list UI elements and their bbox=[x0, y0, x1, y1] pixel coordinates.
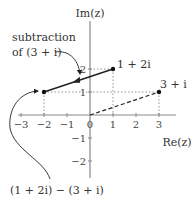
direction-arrow-icon bbox=[72, 77, 80, 83]
y-tick-label: 2 bbox=[80, 64, 86, 75]
annotation-subtraction-line2: of (3 + i) bbox=[12, 46, 62, 59]
annotation-arrow-result bbox=[10, 91, 50, 179]
y-tick-label: −2 bbox=[71, 156, 86, 167]
x-tick-label: 3 bbox=[156, 119, 162, 130]
x-axis-label: Re(z) bbox=[162, 136, 191, 149]
y-axis-label: Im(z) bbox=[75, 7, 104, 20]
y-tick-label: 1 bbox=[80, 87, 86, 98]
guide-lines bbox=[44, 69, 159, 115]
y-tick-label: −1 bbox=[71, 133, 86, 144]
x-tick-label: 0 bbox=[87, 119, 93, 130]
annotation-subtraction-line1: subtraction bbox=[12, 31, 76, 44]
complex-plane-diagram: −3 −2 −1 0 1 2 3 2 1 −1 −2 Im(z) Re(z) 1… bbox=[0, 0, 194, 204]
annotation-result: (1 + 2i) − (3 + i) bbox=[10, 184, 104, 197]
point-result bbox=[42, 90, 46, 94]
label-1-plus-2i: 1 + 2i bbox=[117, 58, 151, 71]
x-tick-label: −3 bbox=[14, 119, 29, 130]
point-1-plus-2i bbox=[111, 67, 115, 71]
x-tick-label: 2 bbox=[133, 119, 139, 130]
label-3-plus-i: 3 + i bbox=[160, 78, 187, 91]
x-tick-label: −1 bbox=[60, 119, 75, 130]
vector-3-plus-i bbox=[90, 92, 159, 115]
x-tick-label: −2 bbox=[37, 119, 52, 130]
x-tick-label: 1 bbox=[110, 119, 116, 130]
